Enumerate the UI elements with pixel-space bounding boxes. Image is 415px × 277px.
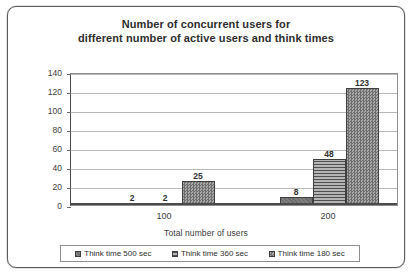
bar-value-label: 2 [163, 193, 168, 203]
y-axis-tick [67, 93, 71, 94]
bar-value-label: 2 [130, 193, 135, 203]
chart-title: Number of concurrent users for different… [8, 17, 404, 45]
bar-value-label: 48 [324, 149, 333, 159]
y-axis-tick-label: 80 [53, 125, 62, 135]
y-axis-tick-label: 40 [53, 163, 62, 173]
y-axis-tick [67, 169, 71, 170]
y-axis-tick-label: 140 [48, 68, 62, 78]
y-axis-tick [67, 74, 71, 75]
y-axis-tick [67, 112, 71, 113]
chart-title-line-1: Number of concurrent users for [8, 17, 404, 31]
legend-item[interactable]: Think time 360 sec [172, 249, 248, 258]
y-axis-tick [67, 207, 71, 208]
bar [313, 159, 346, 205]
legend-label: Think time 180 sec [278, 249, 345, 258]
x-axis-title: Total number of users [8, 228, 404, 238]
legend-item[interactable]: Think time 180 sec [269, 249, 345, 258]
chart-title-line-2: different number of active users and thi… [8, 31, 404, 45]
chart-legend: Think time 500 secThink time 360 secThin… [60, 245, 360, 262]
y-axis-tick-label: 20 [53, 182, 62, 192]
y-axis-tick [67, 150, 71, 151]
y-axis-tick [67, 188, 71, 189]
y-axis-tick-label: 100 [48, 106, 62, 116]
bar-value-label: 25 [193, 171, 202, 181]
legend-swatch-icon [172, 251, 178, 257]
y-axis-tick [67, 131, 71, 132]
legend-swatch-icon [269, 251, 275, 257]
y-axis-tick-label: 60 [53, 144, 62, 154]
x-axis-line [70, 203, 397, 205]
bar [346, 88, 379, 205]
y-axis-tick-label: 120 [48, 87, 62, 97]
y-axis-tick-label: 0 [57, 201, 62, 211]
chart-frame: Number of concurrent users for different… [7, 6, 405, 268]
bar [182, 181, 215, 205]
chart-container: Number of concurrent users for different… [8, 7, 404, 267]
x-axis-category-label: 200 [320, 211, 335, 221]
plot-area: 2225848123 [70, 73, 398, 206]
gridline [71, 74, 397, 75]
legend-label: Think time 360 sec [181, 249, 248, 258]
bar-value-label: 8 [294, 187, 299, 197]
legend-swatch-icon [75, 251, 81, 257]
legend-item[interactable]: Think time 500 sec [75, 249, 151, 258]
x-axis-category-label: 100 [156, 211, 171, 221]
bar-value-label: 123 [355, 78, 369, 88]
legend-label: Think time 500 sec [84, 249, 151, 258]
